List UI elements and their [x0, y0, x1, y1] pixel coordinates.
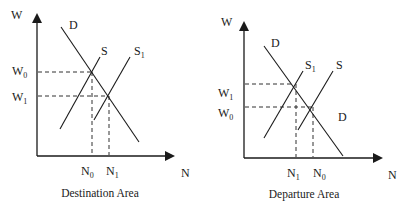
- supply-curve-label: S: [336, 58, 343, 72]
- n1-label: N1: [287, 166, 300, 182]
- demand-curve: [61, 27, 139, 142]
- n1-label: N1: [106, 164, 119, 180]
- n0-label: N0: [313, 166, 326, 182]
- shifted-supply-curve-label: S1: [134, 44, 145, 60]
- demand-curve-label-lower: D: [338, 110, 347, 124]
- demand-curve: [264, 46, 343, 156]
- w1-label: W1: [218, 86, 233, 102]
- x-axis-label: N: [388, 168, 397, 182]
- demand-curve-label: D: [69, 18, 78, 32]
- departure-area-caption: Departure Area: [269, 188, 340, 201]
- y-axis-label: W: [221, 15, 233, 29]
- n0-label: N0: [81, 164, 94, 180]
- w0-label: W0: [12, 64, 27, 80]
- supply-curve-label: S: [101, 44, 108, 58]
- destination-area-panel: W N D S S1 W0 W1 N0 N1 Destination Area: [11, 8, 190, 199]
- departure-area-panel: W N D D S1 S W1 W0 N1 N0 Departure Area: [218, 15, 397, 201]
- shifted-supply-curve: [94, 57, 130, 120]
- destination-area-caption: Destination Area: [61, 187, 139, 199]
- y-axis-label: W: [11, 8, 23, 22]
- supply-curve: [60, 57, 100, 129]
- shifted-supply-curve: [264, 71, 303, 138]
- x-axis-label: N: [181, 166, 190, 180]
- shifted-supply-curve-label: S1: [305, 58, 316, 74]
- w1-label: W1: [12, 90, 27, 106]
- labor-market-diagrams: W N D S S1 W0 W1 N0 N1 Destination Area …: [0, 0, 403, 209]
- demand-curve-label: D: [271, 36, 280, 50]
- w0-label: W0: [218, 106, 233, 122]
